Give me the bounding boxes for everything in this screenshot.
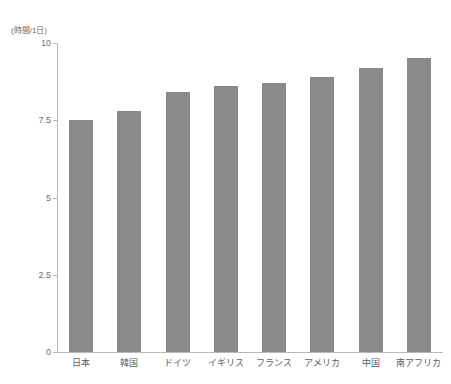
- y-tick-label: 2.5: [38, 270, 51, 280]
- bar-series: [57, 43, 443, 352]
- x-axis-label: 日本: [72, 356, 90, 369]
- bar-slot: [214, 43, 238, 352]
- bar-slot: [359, 43, 383, 352]
- bar-slot: [310, 43, 334, 352]
- bar: [407, 58, 431, 352]
- bar-slot: [262, 43, 286, 352]
- x-axis-line: [57, 352, 443, 353]
- y-tick-mark: [53, 352, 57, 353]
- x-axis-label: フランス: [256, 356, 292, 369]
- bar: [214, 86, 238, 352]
- bar: [117, 111, 141, 352]
- bar: [310, 77, 334, 352]
- y-tick-label: 7.5: [38, 115, 51, 125]
- x-axis-label: 韓国: [120, 356, 138, 369]
- bar-slot: [69, 43, 93, 352]
- x-axis-label: 南アフリカ: [396, 356, 441, 369]
- x-axis-label: アメリカ: [304, 356, 340, 369]
- bar: [69, 120, 93, 352]
- bar-slot: [407, 43, 431, 352]
- x-axis-label: イギリス: [208, 356, 244, 369]
- bar-chart: (時間/1日) 02.557.510 日本韓国ドイツイギリスフランスアメリカ中国…: [0, 0, 451, 384]
- bar: [262, 83, 286, 352]
- y-axis-ticks: 02.557.510: [0, 0, 51, 384]
- bar-slot: [117, 43, 141, 352]
- y-tick-label: 5: [46, 193, 51, 203]
- x-axis-labels: 日本韓国ドイツイギリスフランスアメリカ中国南アフリカ: [57, 356, 443, 376]
- y-tick-label: 0: [46, 347, 51, 357]
- y-tick-label: 10: [41, 38, 51, 48]
- bar: [359, 68, 383, 352]
- x-axis-label: ドイツ: [164, 356, 191, 369]
- bar-slot: [166, 43, 190, 352]
- x-axis-label: 中国: [362, 356, 380, 369]
- bar: [166, 92, 190, 352]
